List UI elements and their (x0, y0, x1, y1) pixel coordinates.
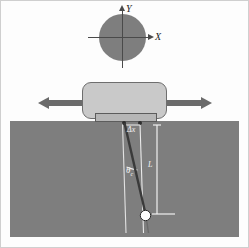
length-label: L (148, 161, 152, 169)
pendulum-geometry (0, 0, 249, 248)
pendulum-bob (140, 210, 150, 220)
reference-line-left (123, 123, 127, 233)
angle-label: θc (126, 166, 133, 177)
pivot-dot-right (138, 121, 142, 125)
angle-subscript: c (130, 171, 133, 177)
physics-diagram: X Y (0, 0, 249, 248)
displacement-label: Δx (127, 126, 135, 134)
